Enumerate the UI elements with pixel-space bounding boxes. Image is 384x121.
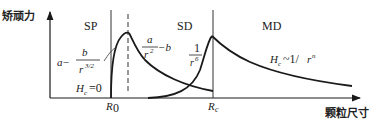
region-sp-label: SP bbox=[84, 19, 98, 33]
sd-falling-curve bbox=[129, 33, 213, 91]
svg-text:n: n bbox=[312, 52, 316, 60]
svg-text:c: c bbox=[215, 105, 219, 114]
svg-text:r: r bbox=[79, 63, 84, 75]
region-md-label: MD bbox=[262, 19, 282, 33]
y-axis-label: 矫顽力 bbox=[2, 9, 35, 23]
md-rise-formula: 1 r 6 bbox=[189, 41, 202, 68]
svg-text:a: a bbox=[147, 33, 153, 45]
svg-text:~1/: ~1/ bbox=[283, 52, 299, 66]
svg-text:1: 1 bbox=[194, 41, 200, 55]
svg-text:0: 0 bbox=[113, 101, 119, 115]
region-sd-label: SD bbox=[177, 19, 193, 33]
svg-text:R: R bbox=[105, 100, 113, 112]
svg-text:c: c bbox=[84, 89, 88, 97]
sp-rising-curve bbox=[111, 33, 129, 98]
coercivity-vs-particle-size-diagram: 矫顽力 颗粒尺寸 SP SD MD a− b r 3/2 a r 2 −b 1 … bbox=[0, 0, 384, 121]
rc-label: R c bbox=[207, 100, 219, 114]
sp-formula: a− b r 3/2 bbox=[57, 46, 100, 75]
svg-text:3/2: 3/2 bbox=[84, 62, 94, 70]
svg-text:c: c bbox=[278, 60, 282, 68]
md-decay-curve bbox=[212, 36, 352, 86]
svg-text:R: R bbox=[207, 100, 215, 112]
svg-text:6: 6 bbox=[195, 55, 199, 63]
svg-text:−b: −b bbox=[158, 41, 171, 53]
sp-zero-coercivity-label: H c =0 bbox=[75, 81, 102, 97]
x-axis-label: 颗粒尺寸 bbox=[325, 106, 369, 120]
svg-text:=0: =0 bbox=[89, 81, 102, 95]
svg-text:a−: a− bbox=[57, 56, 70, 68]
sd-formula: a r 2 −b bbox=[142, 33, 171, 60]
md-decay-formula: H c ~1/ r n bbox=[269, 52, 316, 68]
svg-text:2: 2 bbox=[150, 47, 154, 55]
r0-label: R 0 bbox=[105, 100, 119, 115]
svg-text:r: r bbox=[144, 48, 149, 60]
svg-text:b: b bbox=[82, 46, 88, 58]
svg-text:r: r bbox=[190, 57, 194, 68]
